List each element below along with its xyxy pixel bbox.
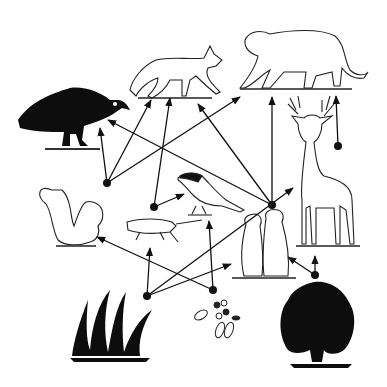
energy-flow-arrow	[147, 248, 150, 296]
energy-flow-arrow	[154, 194, 184, 207]
grasshopper-illustration	[127, 219, 202, 242]
node-dot	[209, 286, 217, 294]
node-dot	[334, 142, 342, 150]
bird-illustration	[178, 173, 244, 215]
shrub-illustration	[281, 282, 355, 368]
node-dot	[150, 203, 158, 211]
food-web-canvas	[0, 0, 387, 387]
energy-flow-arrow	[209, 221, 213, 290]
seeds-illustration	[193, 300, 240, 339]
coyote-illustration	[130, 46, 222, 98]
energy-flow-arrow	[97, 237, 213, 290]
squirrel-illustration	[40, 188, 103, 246]
grass-illustration	[70, 290, 152, 362]
energy-flow-arrow	[336, 96, 338, 146]
energy-flow-arrow	[100, 128, 107, 183]
node-dot	[103, 179, 111, 187]
energy-flow-arrow	[107, 97, 240, 183]
energy-flow-arrow	[147, 264, 231, 296]
cougar-illustration	[240, 31, 368, 90]
node-dot	[143, 292, 151, 300]
energy-flow-arrow	[154, 98, 170, 207]
vulture-illustration	[18, 88, 130, 149]
food-web-diagram	[0, 0, 387, 387]
prairie-dogs-illustration	[232, 209, 296, 278]
node-dot	[311, 271, 319, 279]
deer-illustration	[288, 96, 360, 246]
energy-flow-arrow	[288, 257, 315, 275]
